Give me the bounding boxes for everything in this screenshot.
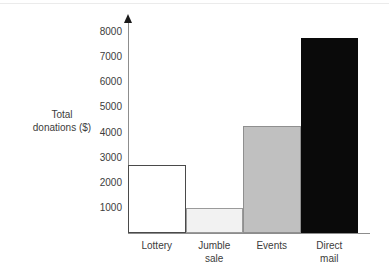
x-axis-category-label-line: Jumble — [186, 239, 244, 252]
x-axis-category-label: Lottery — [128, 239, 186, 252]
x-axis-line — [128, 233, 370, 234]
x-axis-category-label: Directmail — [301, 239, 359, 265]
bar — [186, 208, 244, 233]
x-axis-category-label: Jumblesale — [186, 239, 244, 265]
y-axis-tick-labels: 10002000300040005000600070008000 — [88, 0, 122, 276]
x-axis-category-label-line: Lottery — [128, 239, 186, 252]
bar — [301, 38, 359, 233]
x-axis-category-label-line: Events — [243, 239, 301, 252]
x-axis-category-label-line: mail — [301, 252, 359, 265]
x-axis-category-label: Events — [243, 239, 301, 252]
bar — [243, 126, 301, 233]
y-axis-tick-label: 5000 — [90, 102, 122, 112]
y-axis-tick-label: 3000 — [90, 153, 122, 163]
x-axis-category-label-line: sale — [186, 252, 244, 265]
y-axis-tick-label: 4000 — [90, 128, 122, 138]
y-axis-tick-label: 2000 — [90, 178, 122, 188]
x-axis-category-label-line: Direct — [301, 239, 359, 252]
plot-area — [128, 22, 358, 233]
y-axis-tick-label: 8000 — [90, 27, 122, 37]
y-axis-tick-label: 1000 — [90, 203, 122, 213]
bar — [128, 165, 186, 233]
y-axis-tick-label: 7000 — [90, 52, 122, 62]
x-axis-category-labels: LotteryJumblesaleEventsDirectmail — [128, 239, 358, 273]
y-axis-tick-label: 6000 — [90, 77, 122, 87]
bar-chart: Total donations ($) 10002000300040005000… — [0, 0, 389, 276]
